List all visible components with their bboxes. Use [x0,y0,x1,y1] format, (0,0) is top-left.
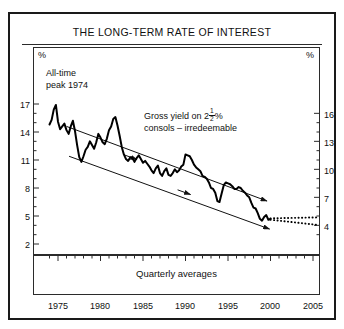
trend-line-lower [69,156,270,229]
chart-figure: THE LONG-TERM RATE OF INTEREST % % Quart… [0,0,344,329]
x-axis-ticks [50,255,314,261]
left-axis-ticks [33,104,39,244]
series-line-consols-yield [50,105,271,221]
series-line-projection-upper [271,217,318,218]
trend-mid-arrow-2 [178,190,191,195]
chart-plot-svg [0,0,344,329]
series-line-projection-lower [271,220,318,225]
right-axis-ticks [314,113,320,234]
